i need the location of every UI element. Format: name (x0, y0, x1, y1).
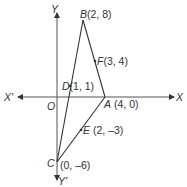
point-a-coords: (4, 0) (114, 98, 139, 110)
point-d-label: D(1, 1) (62, 80, 94, 92)
point-e-name: E (83, 124, 91, 136)
point-d-coords: (1, 1) (70, 80, 95, 92)
point-e-dot (80, 129, 83, 132)
point-e-coords: (2, –3) (93, 124, 123, 136)
point-a-label: A(4, 0) (103, 98, 139, 110)
point-f-label: F(3, 4) (97, 55, 128, 67)
x-axis-label: X (175, 91, 184, 103)
origin-label: O (47, 100, 55, 112)
point-e-label: E(2, –3) (83, 124, 123, 136)
y-axis-label: Y (51, 3, 59, 15)
point-f-dot (94, 60, 97, 63)
point-f-coords: (3, 4) (103, 55, 128, 67)
point-b-label: B(2, 8) (80, 8, 112, 20)
y-prime-axis-label: Y' (58, 175, 68, 187)
x-prime-axis-label: X' (3, 91, 14, 103)
point-c-name: C (47, 157, 55, 169)
point-b-name: B (80, 8, 87, 20)
coordinate-diagram: Y X X' Y' O B(2, 8) F(3, 4) D(1, 1) A(4,… (0, 0, 187, 187)
point-c-coords: (0, –6) (60, 159, 90, 171)
point-b-coords: (2, 8) (87, 8, 112, 20)
point-a-name: A (103, 98, 111, 110)
